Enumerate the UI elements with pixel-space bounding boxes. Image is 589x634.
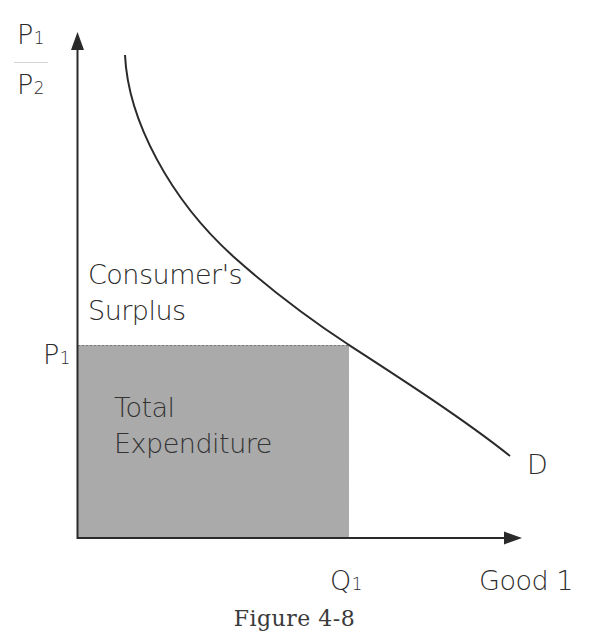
x-axis-label: Good 1 (479, 567, 573, 594)
fraction-divider (14, 62, 48, 63)
y-axis-label-numerator: P1 (17, 21, 44, 48)
figure-caption: Figure 4-8 (0, 606, 589, 631)
price-tick-p1: P1 (43, 341, 70, 368)
demand-curve-label: D (527, 451, 547, 478)
consumer-surplus-label: Consumer's Surplus (88, 257, 242, 329)
y-axis-label-denominator: P2 (17, 71, 44, 98)
total-expenditure-label: Total Expenditure (114, 390, 272, 462)
x-axis-arrowhead-icon (504, 532, 522, 545)
demand-curve-figure: P1 P2 P1 Consumer's Surplus Total Expend… (0, 0, 589, 634)
quantity-tick-q1: Q1 (330, 567, 362, 594)
y-axis-arrowhead-icon (71, 32, 84, 50)
